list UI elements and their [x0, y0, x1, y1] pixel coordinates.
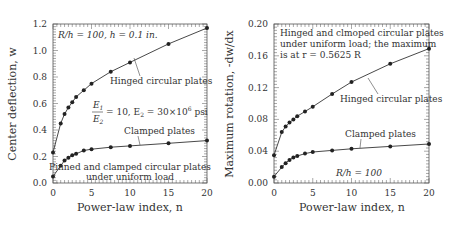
- y-tick-label: 0.6: [33, 99, 48, 109]
- data-point: [284, 161, 288, 165]
- data-point: [311, 150, 315, 154]
- data-point: [109, 70, 113, 74]
- data-point: [350, 147, 354, 151]
- data-point: [330, 92, 334, 96]
- y-tick-label: 0.20: [248, 19, 268, 29]
- data-point: [295, 114, 299, 118]
- y-tick-label: 0.8: [33, 72, 48, 82]
- frac-num: E1: [92, 100, 103, 111]
- left-note-rh: R/h = 100, h = 0.1 in.: [57, 30, 158, 40]
- data-point: [74, 152, 78, 156]
- x-tick-label: 15: [163, 188, 175, 198]
- x-tick-label: 10: [346, 188, 358, 198]
- x-tick-label: 5: [310, 188, 316, 198]
- y-tick-label: 0.04: [248, 146, 268, 156]
- data-point: [167, 141, 171, 145]
- left-clamped-label: Clamped plates: [124, 126, 195, 136]
- data-point: [167, 42, 171, 46]
- data-point: [90, 147, 94, 151]
- data-point: [295, 154, 299, 158]
- y-tick-label: 0.12: [248, 83, 268, 93]
- left-series: [51, 26, 209, 178]
- data-point: [128, 144, 132, 148]
- data-point: [51, 151, 55, 155]
- data-point: [51, 174, 55, 178]
- data-point: [74, 95, 78, 99]
- data-point: [272, 175, 276, 179]
- data-point: [311, 105, 315, 109]
- frac-den: E2: [92, 114, 104, 125]
- data-point: [82, 88, 86, 92]
- data-point: [66, 156, 70, 160]
- right-chart: 0.000.040.080.120.160.20 05101520 Power-…: [223, 19, 444, 214]
- data-point: [128, 60, 132, 64]
- y-tick-label: 0.08: [248, 114, 268, 124]
- right-y-tick-labels: 0.000.040.080.120.160.20: [248, 19, 268, 188]
- left-x-tick-labels: 05101520: [50, 188, 213, 198]
- x-tick-label: 10: [124, 188, 136, 198]
- data-point: [330, 148, 334, 152]
- data-point: [205, 139, 209, 143]
- y-tick-label: 0.00: [248, 178, 268, 188]
- y-tick-label: 0.2: [33, 152, 47, 162]
- data-point: [291, 156, 295, 160]
- x-tick-label: 20: [423, 188, 435, 198]
- left-hinged-label: Hinged circular plates: [110, 76, 213, 86]
- right-y-axis-label: Maximum rotation, -dw/dx: [223, 29, 236, 177]
- right-hinged-label: Hinged circular plates: [340, 94, 443, 104]
- data-point: [70, 100, 74, 104]
- data-point: [59, 121, 63, 125]
- y-tick-label: 0.4: [33, 125, 48, 135]
- data-point: [82, 149, 86, 153]
- data-point: [388, 144, 392, 148]
- data-point: [388, 62, 392, 66]
- y-tick-label: 0.0: [33, 178, 48, 188]
- right-x-tick-labels: 05101520: [271, 188, 435, 198]
- data-point: [427, 142, 431, 146]
- left-modulus-annotation: E1 E2 = 10, E2 = 30×106 psi: [92, 100, 208, 125]
- data-point: [288, 158, 292, 162]
- right-note-1: Hinged and clmoped circular plates: [280, 28, 444, 38]
- right-rh-note: R/h = 100: [335, 168, 382, 178]
- y-tick-label: 1.0: [33, 46, 48, 56]
- x-tick-label: 5: [89, 188, 95, 198]
- left-x-axis-label: Power-law index, n: [77, 201, 183, 214]
- left-y-tick-labels: 0.00.20.40.60.81.01.2: [33, 19, 48, 188]
- data-point: [350, 80, 354, 84]
- right-series: [272, 47, 431, 179]
- left-y-axis-label: Center deflection, w: [6, 47, 19, 161]
- left-clamped-leader: [138, 136, 140, 145]
- figure: 0.00.20.40.60.81.01.2 05101520 Power-law…: [0, 0, 449, 232]
- data-point: [66, 105, 70, 109]
- left-chart: 0.00.20.40.60.81.01.2 05101520 Power-law…: [6, 19, 213, 214]
- right-x-axis-label: Power-law index, n: [299, 201, 405, 214]
- data-point: [280, 130, 284, 134]
- left-axis-ticks: [53, 24, 207, 183]
- left-bottom-note-2: under uniform load: [86, 172, 174, 182]
- data-point: [303, 109, 307, 113]
- left-hinged-leader: [134, 58, 140, 76]
- x-tick-label: 15: [385, 188, 397, 198]
- right-hinged-leader: [368, 78, 378, 94]
- data-point: [280, 165, 284, 169]
- data-point: [70, 153, 74, 157]
- data-point: [291, 117, 295, 121]
- y-tick-label: 0.16: [248, 51, 268, 61]
- data-point: [109, 145, 113, 149]
- x-tick-label: 0: [50, 188, 56, 198]
- data-point: [303, 152, 307, 156]
- right-note-3: is at r = 0.5625 R: [280, 50, 361, 60]
- data-point: [63, 112, 67, 116]
- data-point: [90, 82, 94, 86]
- x-tick-label: 0: [271, 188, 277, 198]
- data-point: [272, 153, 276, 157]
- right-note-2: under uniform load; the maximum: [280, 39, 437, 49]
- right-clamped-leader: [360, 139, 361, 148]
- left-plot-frame: [53, 24, 207, 183]
- data-point: [284, 125, 288, 129]
- y-tick-label: 1.2: [33, 19, 47, 29]
- frac-rest: = 10, E2 = 30×106 psi: [106, 105, 208, 118]
- x-tick-label: 20: [201, 188, 213, 198]
- data-point: [205, 26, 209, 30]
- left-bottom-note-1: Pinned and clamped circular plates: [49, 162, 211, 172]
